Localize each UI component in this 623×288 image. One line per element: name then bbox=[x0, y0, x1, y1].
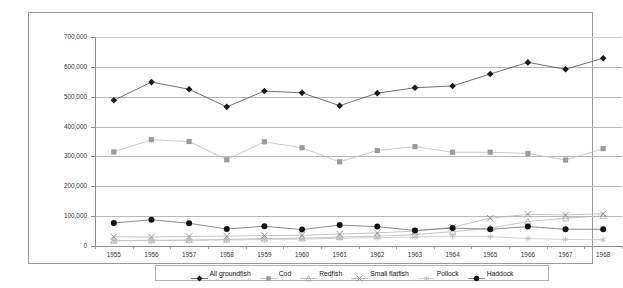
x-axis-tick-label: 1967 bbox=[546, 251, 586, 259]
data-point-diamond bbox=[196, 275, 202, 281]
data-point-circle bbox=[374, 224, 380, 230]
legend-marker-square-icon bbox=[260, 269, 277, 278]
data-point-square bbox=[525, 151, 530, 156]
data-point-diamond bbox=[374, 90, 381, 97]
y-axis-tick-label: 100,000 bbox=[29, 212, 87, 219]
series-all-groundfish bbox=[111, 55, 607, 110]
data-point-square bbox=[412, 144, 417, 149]
series-small-flatfish bbox=[111, 211, 607, 241]
data-point-diamond bbox=[562, 66, 569, 73]
x-axis-tick-label: 1966 bbox=[508, 251, 548, 259]
x-tick-mark bbox=[509, 246, 510, 249]
legend-marker-circle-icon bbox=[468, 269, 485, 278]
data-point-diamond bbox=[186, 86, 193, 93]
legend-item-label: Redfish bbox=[319, 270, 342, 277]
plot-area bbox=[95, 37, 622, 246]
x-axis-tick-label: 1961 bbox=[320, 251, 360, 259]
data-point-diamond bbox=[525, 59, 532, 66]
data-point-square bbox=[375, 148, 380, 153]
data-point-diamond bbox=[111, 97, 118, 104]
x-tick-mark bbox=[283, 246, 284, 249]
y-axis-tick-label: 0 bbox=[29, 242, 87, 249]
x-axis-tick-label: 1963 bbox=[395, 251, 435, 259]
data-point-circle bbox=[148, 217, 154, 223]
data-point-circle bbox=[525, 224, 531, 230]
data-point-diamond bbox=[600, 55, 607, 62]
legend-marker-diamond-icon bbox=[191, 269, 208, 278]
x-tick-mark bbox=[95, 246, 96, 249]
series-layer bbox=[95, 37, 622, 246]
x-tick-mark bbox=[170, 246, 171, 249]
legend-item-all-groundfish[interactable]: All groundfish bbox=[191, 269, 251, 278]
data-point-diamond bbox=[261, 88, 268, 95]
data-point-square bbox=[224, 157, 229, 162]
data-point-square bbox=[266, 276, 271, 281]
legend-marker-cross-icon bbox=[351, 269, 368, 278]
x-tick-mark bbox=[547, 246, 548, 249]
x-tick-mark bbox=[359, 246, 360, 249]
data-point-diamond bbox=[412, 84, 419, 91]
data-point-diamond bbox=[223, 104, 230, 111]
data-point-diamond bbox=[299, 90, 306, 97]
series-cod bbox=[111, 137, 606, 164]
series-haddock bbox=[111, 217, 606, 234]
data-point-square bbox=[299, 145, 304, 150]
data-point-square bbox=[488, 150, 493, 155]
legend-marker-star-icon bbox=[418, 269, 435, 278]
data-point-diamond bbox=[336, 102, 343, 109]
data-point-circle bbox=[563, 226, 569, 232]
x-tick-mark bbox=[434, 246, 435, 249]
legend-item-redfish[interactable]: Redfish bbox=[300, 269, 342, 278]
y-axis-tick-label: 500,000 bbox=[29, 93, 87, 100]
x-axis-tick-label: 1962 bbox=[357, 251, 397, 259]
data-point-square bbox=[262, 139, 267, 144]
data-point-circle bbox=[412, 227, 418, 233]
data-point-circle bbox=[473, 275, 478, 280]
data-point-circle bbox=[450, 225, 456, 231]
series-pollock bbox=[111, 233, 606, 244]
x-axis-tick-label: 1958 bbox=[207, 251, 247, 259]
legend-marker-triangle-icon bbox=[300, 269, 317, 278]
x-axis-tick-label: 1968 bbox=[583, 251, 623, 259]
data-point-square bbox=[111, 149, 116, 154]
y-axis-tick-label: 300,000 bbox=[29, 152, 87, 159]
x-tick-mark bbox=[208, 246, 209, 249]
series-line bbox=[114, 58, 603, 107]
legend-item-label: Cod bbox=[279, 270, 291, 277]
data-point-square bbox=[337, 159, 342, 164]
data-point-circle bbox=[487, 226, 493, 232]
data-point-square bbox=[563, 157, 568, 162]
y-axis-tick-label: 400,000 bbox=[29, 123, 87, 130]
data-point-diamond bbox=[449, 83, 456, 90]
legend-item-cod[interactable]: Cod bbox=[260, 269, 291, 278]
legend-item-small-flatfish[interactable]: Small flatfish bbox=[351, 269, 409, 278]
data-point-square bbox=[450, 150, 455, 155]
x-axis-tick-label: 1955 bbox=[94, 251, 134, 259]
x-axis-tick-label: 1964 bbox=[433, 251, 473, 259]
legend-item-label: Pollock bbox=[437, 270, 459, 277]
data-point-square bbox=[187, 139, 192, 144]
data-point-diamond bbox=[487, 71, 494, 78]
legend-item-haddock[interactable]: Haddock bbox=[468, 269, 514, 278]
data-point-circle bbox=[261, 223, 267, 229]
legend-item-pollock[interactable]: Pollock bbox=[418, 269, 459, 278]
data-point-circle bbox=[186, 220, 192, 226]
x-tick-mark bbox=[471, 246, 472, 249]
data-point-circle bbox=[299, 227, 305, 233]
y-axis-tick-label: 600,000 bbox=[29, 63, 87, 70]
y-axis-tick-label: 200,000 bbox=[29, 182, 87, 189]
data-point-circle bbox=[224, 226, 230, 232]
x-axis-tick-label: 1956 bbox=[131, 251, 171, 259]
x-axis-tick-label: 1959 bbox=[244, 251, 284, 259]
x-tick-mark bbox=[246, 246, 247, 249]
y-axis-tick-label: 700,000 bbox=[29, 33, 87, 40]
x-tick-mark bbox=[396, 246, 397, 249]
data-point-square bbox=[149, 137, 154, 142]
legend-item-label: All groundfish bbox=[210, 270, 251, 277]
data-point-circle bbox=[337, 222, 343, 228]
data-point-circle bbox=[600, 226, 606, 232]
x-tick-mark bbox=[584, 246, 585, 249]
x-tick-mark bbox=[321, 246, 322, 249]
legend-item-label: Haddock bbox=[487, 270, 514, 277]
data-point-square bbox=[601, 146, 606, 151]
